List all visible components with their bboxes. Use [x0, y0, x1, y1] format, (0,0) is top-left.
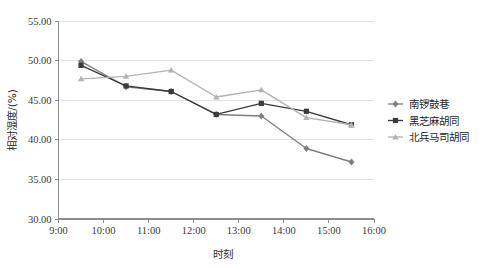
legend: 南锣鼓巷黑芝麻胡同北兵马司胡同	[388, 98, 469, 143]
y-tick-label: 45.00	[28, 95, 52, 106]
data-point-marker	[214, 112, 219, 117]
series-3	[78, 67, 355, 127]
series-lines	[78, 58, 355, 165]
x-tick-label: 16:00	[362, 225, 386, 236]
x-tick-label: 11:00	[137, 225, 161, 236]
legend-marker-icon	[393, 118, 398, 123]
y-tick-labels: 30.0035.0040.0045.0050.0055.00	[28, 16, 59, 225]
x-tick-label: 14:00	[272, 225, 296, 236]
chart-canvas: 30.0035.0040.0045.0050.0055.00 9:0010:00…	[0, 0, 482, 268]
data-point-marker	[258, 87, 264, 93]
x-tick-label: 10:00	[92, 225, 116, 236]
data-point-marker	[303, 115, 309, 121]
humidity-line-chart: 30.0035.0040.0045.0050.0055.00 9:0010:00…	[0, 0, 482, 268]
y-tick-label: 40.00	[28, 134, 52, 145]
data-point-marker	[258, 113, 264, 120]
legend-label: 黑芝麻胡同	[409, 115, 459, 127]
data-point-marker	[348, 159, 354, 166]
gridlines	[59, 21, 375, 219]
y-tick-label: 35.00	[28, 174, 52, 185]
x-axis-title: 时刻	[213, 248, 233, 260]
plot-axes	[59, 21, 375, 219]
x-tick-label: 13:00	[227, 225, 251, 236]
y-axis-title: 相对湿度/(%)	[6, 89, 18, 151]
data-point-marker	[124, 83, 129, 88]
x-tick-labels: 9:0010:0011:0012:0013:0014:0015:0016:00	[49, 219, 386, 236]
data-point-marker	[304, 109, 309, 114]
data-point-marker	[303, 145, 309, 152]
x-tick-label: 9:00	[49, 225, 68, 236]
data-point-marker	[259, 101, 264, 106]
x-tick-label: 15:00	[317, 225, 341, 236]
data-point-marker	[169, 89, 174, 94]
legend-label: 南锣鼓巷	[409, 98, 450, 110]
y-tick-label: 30.00	[28, 214, 52, 225]
y-tick-label: 55.00	[28, 16, 52, 27]
y-tick-label: 50.00	[28, 55, 52, 66]
x-tick-label: 12:00	[182, 225, 206, 236]
legend-label: 北兵马司胡同	[409, 131, 469, 143]
data-point-marker	[78, 63, 83, 68]
legend-marker-icon	[393, 101, 399, 108]
series-1	[78, 58, 354, 165]
